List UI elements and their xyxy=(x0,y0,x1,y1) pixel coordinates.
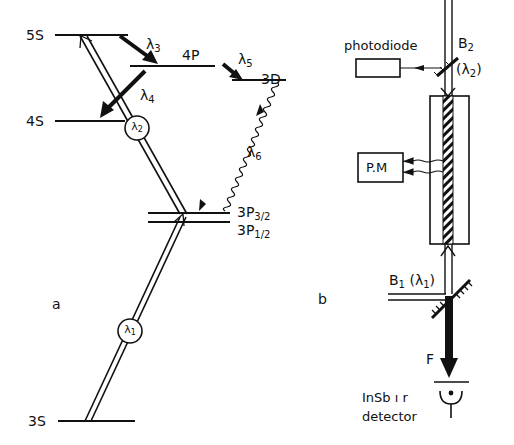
lambda2-sub: 2 xyxy=(138,125,143,134)
label-3p12-sub: 1/2 xyxy=(254,229,270,240)
lambda1-transition xyxy=(85,214,186,421)
label-f: F xyxy=(426,352,434,366)
label-3p12-main: 3P xyxy=(237,222,254,238)
label-pm: P.M xyxy=(366,161,387,174)
label-3d: 3D xyxy=(261,72,281,86)
label-b2: B2 xyxy=(458,36,474,53)
label-b1: B1 (λ1) xyxy=(389,273,435,290)
b1-wl: (λ xyxy=(409,272,423,288)
b2-name: B xyxy=(458,35,468,51)
lambda4-sub: 4 xyxy=(148,94,154,105)
b2-wl: (λ xyxy=(456,61,470,77)
b2-sub: 2 xyxy=(468,42,474,53)
label-lambda2: λ2 xyxy=(127,121,147,134)
label-3s: 3S xyxy=(28,414,46,428)
b1-name: B xyxy=(389,272,399,288)
b1-sub: 1 xyxy=(399,279,405,290)
label-photodiode: photodiode xyxy=(344,39,418,52)
label-3p12: 3P1/2 xyxy=(237,223,270,240)
photodiode-box xyxy=(356,59,400,77)
label-detector-line2: detector xyxy=(362,410,417,423)
beam-b2 xyxy=(441,0,455,96)
panel-a-label: a xyxy=(52,297,61,311)
beamsplitter-top xyxy=(434,58,458,76)
label-3p32-sub: 3/2 xyxy=(254,211,270,222)
label-4p: 4P xyxy=(182,48,199,62)
label-5s: 5S xyxy=(26,28,44,42)
label-lambda1: λ1 xyxy=(120,324,140,337)
lambda6-wavy-arrow xyxy=(199,82,279,211)
b2-wl-close: ) xyxy=(476,61,481,77)
panel-b-label: b xyxy=(318,292,327,306)
label-4s: 4S xyxy=(26,114,44,128)
lambda6-sub: 6 xyxy=(255,151,261,162)
label-lambda3: λ3 xyxy=(146,37,161,54)
lambda3-sub: 3 xyxy=(154,43,160,54)
label-lambda5: λ5 xyxy=(238,52,253,69)
label-lambda2-beam: (λ2) xyxy=(456,62,482,79)
lambda5-sub: 5 xyxy=(246,58,252,69)
label-lambda4: λ4 xyxy=(140,88,155,105)
label-3p32-main: 3P xyxy=(237,204,254,220)
label-detector-line1: InSb ı r xyxy=(362,391,408,404)
lambda1-sub: 1 xyxy=(131,328,136,337)
b1-wl-close: ) xyxy=(430,272,435,288)
insb-detector-icon xyxy=(434,382,469,418)
label-lambda6: λ6 xyxy=(247,145,262,162)
label-3p32: 3P3/2 xyxy=(237,205,270,222)
interaction-region xyxy=(443,96,453,244)
photodiode-beam xyxy=(400,65,442,71)
